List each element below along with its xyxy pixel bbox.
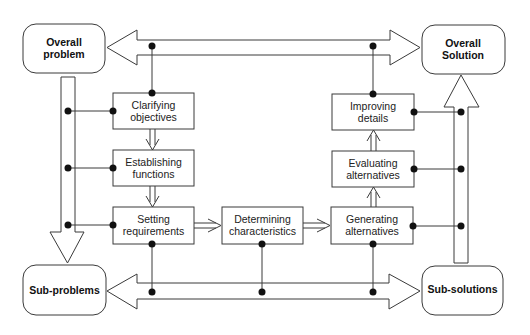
setting-requirements-label-line2: requirements <box>123 225 184 237</box>
flow-arrow-clarify-establish <box>146 129 159 150</box>
overall-solution-label-line2: Solution <box>442 49 484 61</box>
clarifying-objectives-label-line1: Clarifying <box>132 99 176 111</box>
overall-solution-label-line1: Overall <box>445 37 481 49</box>
improving-details-label-line2: details <box>358 112 388 124</box>
setting-requirements-label-line1: Setting <box>137 213 170 225</box>
clarifying-objectives-label-line2: objectives <box>130 111 177 123</box>
establishing-functions-label-line2: functions <box>132 168 174 180</box>
flow-arrow-generating-evaluating <box>367 187 380 207</box>
sub-problems-label: Sub-problems <box>29 284 100 296</box>
flow-arrow-determining-generating <box>303 219 330 232</box>
generating-alternatives-label-line1: Generating <box>346 213 398 225</box>
improving-details-label-line1: Improving <box>350 100 396 112</box>
establishing-functions-label-line1: Establishing <box>125 156 182 168</box>
sub-solutions-label: Sub-solutions <box>428 283 498 295</box>
determining-characteristics-label-line2: characteristics <box>229 225 296 237</box>
design-process-diagram: Overall problem Overall Solution Sub-pro… <box>0 0 530 335</box>
overall-problem-label-line2: problem <box>43 48 84 60</box>
evaluating-alternatives-label-line2: alternatives <box>346 169 400 181</box>
flow-arrow-evaluating-improving <box>367 130 380 151</box>
overall-problem-label-line1: Overall <box>46 36 82 48</box>
flow-arrow-establish-setting <box>146 186 159 207</box>
evaluating-alternatives-label-line1: Evaluating <box>348 157 397 169</box>
determining-characteristics-label-line1: Determining <box>234 213 291 225</box>
flow-arrow-setting-determining <box>194 219 221 232</box>
generating-alternatives-label-line2: alternatives <box>345 225 399 237</box>
